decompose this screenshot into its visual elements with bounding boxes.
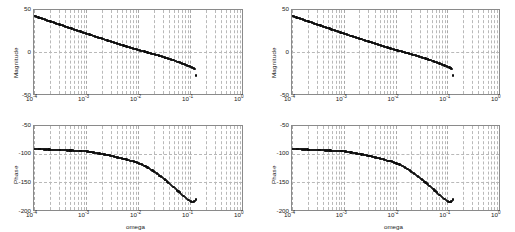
grid-line-vertical <box>174 126 175 210</box>
grid-line-vertical <box>491 126 492 210</box>
panel-top-right: Magnitude 50 0 -50 10-410-310-210-1100 <box>258 0 515 116</box>
bode-plot-figure: Magnitude 50 0 -50 10-410-310-210-1100 M… <box>0 0 515 232</box>
grid-line-vertical <box>478 126 479 210</box>
grid-line-vertical <box>65 126 66 210</box>
grid-line-vertical <box>387 126 388 210</box>
xtick-label: 10-4 <box>284 211 295 218</box>
ytick-top-left-0: 50 <box>12 5 31 12</box>
grid-line-vertical <box>380 126 381 210</box>
grid-line-vertical <box>292 126 293 210</box>
grid-line-vertical <box>499 10 500 94</box>
grid-line-horizontal <box>292 52 499 53</box>
xtick-label: 10-3 <box>78 95 89 102</box>
grid-line-vertical <box>136 126 137 210</box>
xtick-label: 10-1 <box>439 211 450 218</box>
grid-line-vertical <box>488 126 489 210</box>
panel-top-left: Magnitude 50 0 -50 10-410-310-210-1100 <box>0 0 258 116</box>
xtick-label: 10-4 <box>284 95 295 102</box>
grid-line-vertical <box>472 126 473 210</box>
grid-line-vertical <box>84 126 85 210</box>
panel-bottom-left: Phase -50 -100 -150 -200 omega 10-410-31… <box>0 116 258 232</box>
grid-line-vertical <box>190 126 191 210</box>
grid-line-vertical <box>439 126 440 210</box>
ytick-bottom-right-2: -150 <box>266 178 289 185</box>
grid-line-vertical <box>226 126 227 210</box>
grid-line-vertical <box>154 126 155 210</box>
grid-line-vertical <box>427 126 428 210</box>
ytick-top-left-1: 0 <box>12 48 31 55</box>
grid-line-vertical <box>494 126 495 210</box>
plot-area-top-right <box>291 9 500 95</box>
data-point-marker <box>195 74 197 76</box>
grid-line-vertical <box>182 126 183 210</box>
data-point-marker <box>451 68 453 70</box>
grid-line-vertical <box>341 126 342 210</box>
xtick-label: 100 <box>491 95 500 102</box>
grid-line-vertical <box>130 126 131 210</box>
xtick-label: 100 <box>234 95 243 102</box>
xtick-label: 10-3 <box>78 211 89 218</box>
grid-line-vertical <box>375 126 376 210</box>
ytick-bottom-left-2: -150 <box>8 178 31 185</box>
grid-line-horizontal <box>292 154 499 155</box>
grid-line-horizontal <box>292 182 499 183</box>
xtick-label: 10-1 <box>439 95 450 102</box>
grid-line-vertical <box>368 126 369 210</box>
grid-line-vertical <box>390 126 391 210</box>
grid-line-vertical <box>332 126 333 210</box>
grid-line-vertical <box>447 126 448 210</box>
panel-bottom-right: Phase -50 -100 -150 -200 omega 10-410-31… <box>258 116 515 232</box>
grid-line-horizontal <box>34 182 242 183</box>
grid-line-vertical <box>384 126 385 210</box>
xtick-label: 10-1 <box>182 211 193 218</box>
data-point-marker <box>452 74 454 76</box>
xtick-label: 10-4 <box>26 211 37 218</box>
grid-line-horizontal <box>34 154 242 155</box>
xlabel-bottom-left: omega <box>126 223 145 230</box>
grid-line-vertical <box>242 126 243 210</box>
grid-line-vertical <box>215 126 216 210</box>
grid-line-vertical <box>102 126 103 210</box>
grid-line-vertical <box>138 126 139 210</box>
grid-line-vertical <box>50 126 51 210</box>
plot-area-bottom-left <box>33 125 243 211</box>
xtick-label: 10-2 <box>388 95 399 102</box>
xtick-label: 10-4 <box>26 95 37 102</box>
grid-line-vertical <box>34 126 35 210</box>
grid-line-vertical <box>163 126 164 210</box>
grid-line-vertical <box>59 126 60 210</box>
ytick-bottom-left-0: -50 <box>10 121 31 128</box>
xtick-label: 10-2 <box>388 211 399 218</box>
grid-line-vertical <box>436 126 437 210</box>
grid-line-vertical <box>317 126 318 210</box>
data-point-marker <box>195 198 197 200</box>
xtick-label: 10-3 <box>336 211 347 218</box>
grid-line-vertical <box>328 126 329 210</box>
grid-line-vertical <box>81 126 82 210</box>
plot-area-top-left <box>33 9 243 95</box>
grid-line-vertical <box>499 126 500 210</box>
grid-line-vertical <box>78 126 79 210</box>
grid-line-vertical <box>234 126 235 210</box>
grid-line-vertical <box>74 126 75 210</box>
xtick-label: 100 <box>234 211 243 218</box>
grid-line-horizontal <box>34 52 242 53</box>
ytick-top-right-0: 50 <box>270 5 289 12</box>
grid-line-vertical <box>344 126 345 210</box>
grid-line-vertical <box>230 126 231 210</box>
grid-line-vertical <box>336 126 337 210</box>
grid-line-vertical <box>497 126 498 210</box>
grid-line-vertical <box>206 126 207 210</box>
ytick-bottom-right-0: -50 <box>268 121 289 128</box>
xlabel-bottom-right: omega <box>384 223 403 230</box>
grid-line-vertical <box>420 126 421 210</box>
grid-line-vertical <box>237 126 238 210</box>
grid-line-vertical <box>169 126 170 210</box>
xtick-label: 10-1 <box>182 95 193 102</box>
plot-area-bottom-right <box>291 125 500 211</box>
grid-line-vertical <box>122 126 123 210</box>
grid-line-vertical <box>240 126 241 210</box>
grid-line-vertical <box>70 126 71 210</box>
data-point-marker <box>452 198 454 200</box>
xtick-label: 10-2 <box>130 211 141 218</box>
